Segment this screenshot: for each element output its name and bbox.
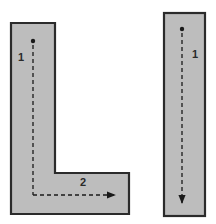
traversal-diagram: 1 2 1 <box>0 0 216 224</box>
i-shape-outline <box>164 13 205 216</box>
l-shape-start-dot <box>31 39 35 43</box>
i-shape-start-dot <box>180 27 184 31</box>
l-shape-outline <box>11 23 129 214</box>
l-shape-segment-2-label: 2 <box>80 176 86 188</box>
l-shape-segment-1-label: 1 <box>18 51 24 63</box>
i-shape-room: 1 <box>164 13 205 216</box>
l-shape-room: 1 2 <box>11 23 129 214</box>
i-shape-segment-1-label: 1 <box>192 48 198 60</box>
